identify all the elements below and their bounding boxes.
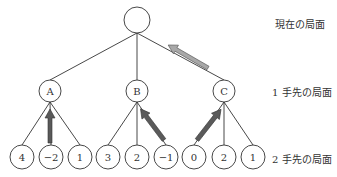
leaf-value: 2 bbox=[221, 152, 227, 163]
leaf-value: −2 bbox=[44, 152, 59, 163]
leaf-value: 3 bbox=[105, 152, 111, 163]
node-a-label: A bbox=[45, 86, 54, 97]
label-two-moves-ahead: 2 手先の局面 bbox=[272, 151, 332, 166]
leaf-value: 4 bbox=[19, 152, 25, 163]
node-b-label: B bbox=[133, 86, 140, 97]
arrow-icon bbox=[45, 109, 55, 143]
leaf-value: 0 bbox=[191, 152, 197, 163]
arrow-icon bbox=[193, 106, 225, 143]
label-one-move-ahead: 1 手先の局面 bbox=[272, 84, 332, 99]
label-current-position: 現在の局面 bbox=[275, 16, 325, 31]
leaf-value: 2 bbox=[134, 152, 140, 163]
leaf-value: 1 bbox=[77, 152, 83, 163]
arrow-icon bbox=[166, 41, 211, 73]
leaf-value: 1 bbox=[250, 152, 256, 163]
leaf-value: −1 bbox=[159, 152, 174, 163]
arrow-icon bbox=[137, 106, 168, 143]
node-c-label: C bbox=[220, 86, 228, 97]
root-node bbox=[124, 7, 150, 33]
